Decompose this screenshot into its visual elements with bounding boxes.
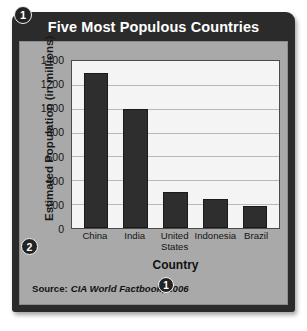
bar-brazil[interactable]: [243, 206, 268, 228]
bars-layer: [72, 61, 279, 228]
bar-slot-china: [76, 61, 116, 228]
x-tick-line: China: [75, 231, 115, 242]
y-tick-label: 1200: [41, 78, 64, 90]
x-tick-line: Indonesia: [195, 231, 237, 242]
y-tick-label: 0: [58, 223, 64, 235]
chart-inner-panel: Estimated Population (in millions) 1400 …: [19, 41, 288, 305]
x-tick-line: Brazil: [236, 231, 276, 242]
x-tick-label-china: China: [75, 231, 115, 252]
callout-badge-yaxis[interactable]: 2: [21, 238, 38, 255]
y-tick-label: 600: [46, 151, 64, 163]
y-tick-label: 1400: [41, 54, 64, 66]
y-tick-label: 400: [46, 175, 64, 187]
bar-slot-india: [116, 61, 156, 228]
x-tick-label-brazil: Brazil: [236, 231, 276, 252]
x-tick-label-india: India: [115, 231, 155, 252]
y-tick-label: 800: [46, 126, 64, 138]
bar-slot-united-states: [156, 61, 196, 228]
bar-indonesia[interactable]: [203, 199, 228, 228]
callout-badge-title[interactable]: 1: [14, 6, 32, 24]
x-tick-line: States: [155, 242, 195, 253]
x-tick-line: India: [115, 231, 155, 242]
x-tick-label-united-states: UnitedStates: [155, 231, 195, 252]
bar-united-states[interactable]: [163, 192, 188, 228]
callout-badge-source[interactable]: 1: [158, 277, 174, 293]
figure-root: Five Most Populous Countries Estimated P…: [0, 0, 307, 331]
y-axis-tick-labels: 1400 1200 1000 800 600 400 200 0: [20, 60, 68, 229]
x-tick-line: United: [155, 231, 195, 242]
x-axis-title: Country: [71, 258, 280, 272]
y-tick-label: 1000: [41, 102, 64, 114]
plot-area: [71, 60, 280, 229]
bar-slot-indonesia: [195, 61, 235, 228]
bar-slot-brazil: [235, 61, 275, 228]
source-label: Source:: [32, 283, 68, 294]
x-tick-label-indonesia: Indonesia: [195, 231, 237, 252]
bar-china[interactable]: [84, 73, 109, 228]
page-title: Five Most Populous Countries: [48, 19, 259, 35]
x-axis-tick-labels: China India UnitedStates Indonesia Brazi…: [71, 231, 280, 252]
y-tick-label: 200: [46, 199, 64, 211]
bar-india[interactable]: [123, 109, 148, 228]
